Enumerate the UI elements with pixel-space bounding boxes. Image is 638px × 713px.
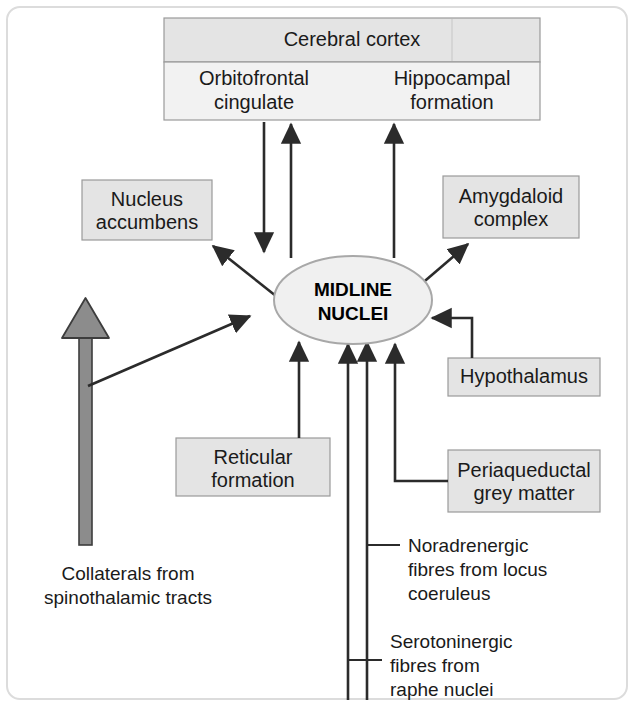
collaterals-label-line2: spinothalamic tracts xyxy=(44,587,212,608)
diagram-canvas: Cerebral cortex Orbitofrontal cingulate … xyxy=(0,0,638,713)
nucleus-accumbens-box[interactable]: Nucleus accumbens xyxy=(82,180,212,240)
cerebral-cortex-header-label: Cerebral cortex xyxy=(284,28,421,50)
hippocampal-label-line1: Hippocampal xyxy=(394,67,511,89)
arrow-periaqueductal-to-nuclei xyxy=(395,344,448,481)
orbitofrontal-label-line1: Orbitofrontal xyxy=(199,67,309,89)
noradrenergic-label-line1: Noradrenergic xyxy=(408,535,528,556)
nucleus-accumbens-label-line1: Nucleus xyxy=(111,188,183,210)
nucleus-accumbens-label-line2: accumbens xyxy=(96,211,198,233)
midline-nuclei-label-line2: NUCLEI xyxy=(318,303,389,324)
periaqueductal-label-line1: Periaqueductal xyxy=(457,459,590,481)
amygdaloid-complex-label-line2: complex xyxy=(474,208,548,230)
amygdaloid-complex-label-line1: Amygdaloid xyxy=(459,185,564,207)
serotoninergic-label-line2: fibres from xyxy=(390,655,480,676)
midline-nuclei-node[interactable]: MIDLINE NUCLEI xyxy=(274,256,432,344)
serotoninergic-label-line3: raphe nuclei xyxy=(390,679,494,700)
noradrenergic-label-line2: fibres from locus xyxy=(408,559,547,580)
collaterals-label-line1: Collaterals from xyxy=(61,563,194,584)
noradrenergic-label-line3: coeruleus xyxy=(408,583,490,604)
arrow-nuclei-to-nucleus-accumbens xyxy=(213,246,281,300)
serotoninergic-label-line1: Serotoninergic xyxy=(390,631,513,652)
periaqueductal-grey-matter-box[interactable]: Periaqueductal grey matter xyxy=(448,450,600,512)
arrow-collaterals-to-nuclei xyxy=(88,316,250,386)
midline-nuclei-label-line1: MIDLINE xyxy=(314,279,392,300)
periaqueductal-label-line2: grey matter xyxy=(473,482,574,504)
gray-arrow-head xyxy=(62,298,109,338)
spinothalamic-gray-arrow xyxy=(62,298,109,545)
serotoninergic-annotation: Serotoninergic fibres from raphe nuclei xyxy=(390,631,513,700)
arrow-hypothalamus-to-nuclei xyxy=(432,318,472,358)
gray-arrow-shaft xyxy=(79,330,92,545)
hypothalamus-box[interactable]: Hypothalamus xyxy=(448,358,600,396)
amygdaloid-complex-box[interactable]: Amygdaloid complex xyxy=(443,176,579,238)
reticular-formation-label-line1: Reticular xyxy=(214,446,293,468)
reticular-formation-label-line2: formation xyxy=(211,469,294,491)
reticular-formation-box[interactable]: Reticular formation xyxy=(176,438,330,496)
cerebral-cortex-box[interactable]: Cerebral cortex Orbitofrontal cingulate … xyxy=(164,18,540,120)
collaterals-annotation: Collaterals from spinothalamic tracts xyxy=(44,563,212,608)
midline-nuclei-ellipse xyxy=(274,256,432,344)
noradrenergic-annotation: Noradrenergic fibres from locus coeruleu… xyxy=(408,535,547,604)
hippocampal-label-line2: formation xyxy=(410,91,493,113)
hypothalamus-label: Hypothalamus xyxy=(460,365,588,387)
neuroanatomy-diagram: Cerebral cortex Orbitofrontal cingulate … xyxy=(0,0,638,713)
orbitofrontal-label-line2: cingulate xyxy=(214,91,294,113)
